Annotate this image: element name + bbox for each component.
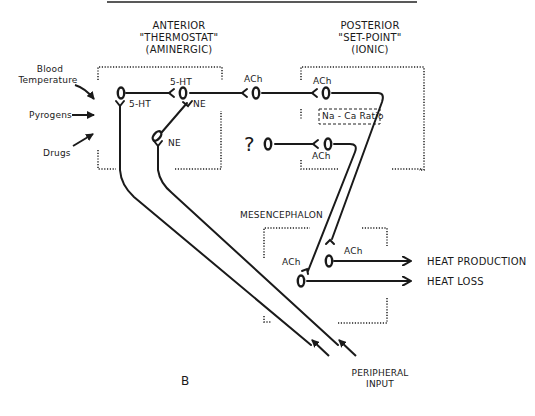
posterior-header: POSTERIOR "SET-POINT" (IONIC)	[320, 20, 420, 56]
cell-unknown	[265, 139, 271, 150]
blood-temperature-label: Blood Temperature	[22, 64, 78, 86]
unknown-source-label: ?	[244, 133, 255, 155]
cell-mes-left	[298, 276, 304, 287]
anterior-box	[98, 67, 222, 169]
synapse-ach-mes-right: ACh	[344, 246, 363, 257]
cell-anterior-ne	[151, 130, 163, 143]
input-label: INPUT	[345, 379, 415, 390]
mesencephalon-label: MESENCEPHALON	[240, 210, 323, 221]
anterior-type: (AMINERGIC)	[124, 44, 234, 56]
peripheral-input-label: PERIPHERAL INPUT	[345, 368, 415, 390]
synapse-ach-mes-left: ACh	[282, 257, 301, 268]
pyrogens-label: Pyrogens	[29, 110, 72, 121]
peripheral-label: PERIPHERAL	[345, 368, 415, 379]
peripheral-arrow-2	[339, 340, 356, 356]
diagram-canvas	[0, 0, 535, 416]
cell-mes-right	[326, 256, 332, 267]
drugs-arrow	[73, 134, 93, 146]
anterior-header: ANTERIOR "THERMOSTAT" (AMINERGIC)	[124, 20, 234, 56]
synapse-ach-posterior-lower: ACh	[312, 151, 331, 162]
drugs-label: Drugs	[43, 148, 71, 159]
blood-temp-arrow	[75, 85, 94, 99]
cell-ach-mid	[253, 88, 259, 99]
cell-posterior-2	[325, 139, 331, 150]
temperature-label: Temperature	[18, 75, 78, 86]
cell-posterior-1	[323, 88, 329, 99]
cell-anterior-1	[118, 88, 124, 99]
posterior-title: POSTERIOR	[320, 20, 420, 32]
synapse-ne-right: NE	[193, 99, 206, 110]
na-ca-ratio-label: Na - Ca Ratio	[322, 111, 384, 122]
panel-label: B	[181, 374, 189, 388]
synapse-5ht-left: 5-HT	[129, 99, 151, 110]
synapse-ne-lower: NE	[168, 138, 181, 149]
synapse-5ht-top: 5-HT	[170, 77, 192, 88]
heat-production-label: HEAT PRODUCTION	[427, 256, 526, 267]
posterior-subtitle: "SET-POINT"	[320, 32, 420, 44]
heat-loss-label: HEAT LOSS	[427, 276, 484, 287]
anterior-title: ANTERIOR	[124, 20, 234, 32]
peripheral-arrow-1	[312, 340, 329, 356]
posterior-type: (IONIC)	[320, 44, 420, 56]
blood-label: Blood	[22, 64, 78, 75]
synapse-ach-posterior-top: ACh	[313, 76, 332, 87]
cell-anterior-2	[180, 88, 186, 99]
anterior-subtitle: "THERMOSTAT"	[124, 32, 234, 44]
synapse-ach-mid: ACh	[244, 74, 263, 85]
mesencephalon-box	[264, 228, 387, 323]
